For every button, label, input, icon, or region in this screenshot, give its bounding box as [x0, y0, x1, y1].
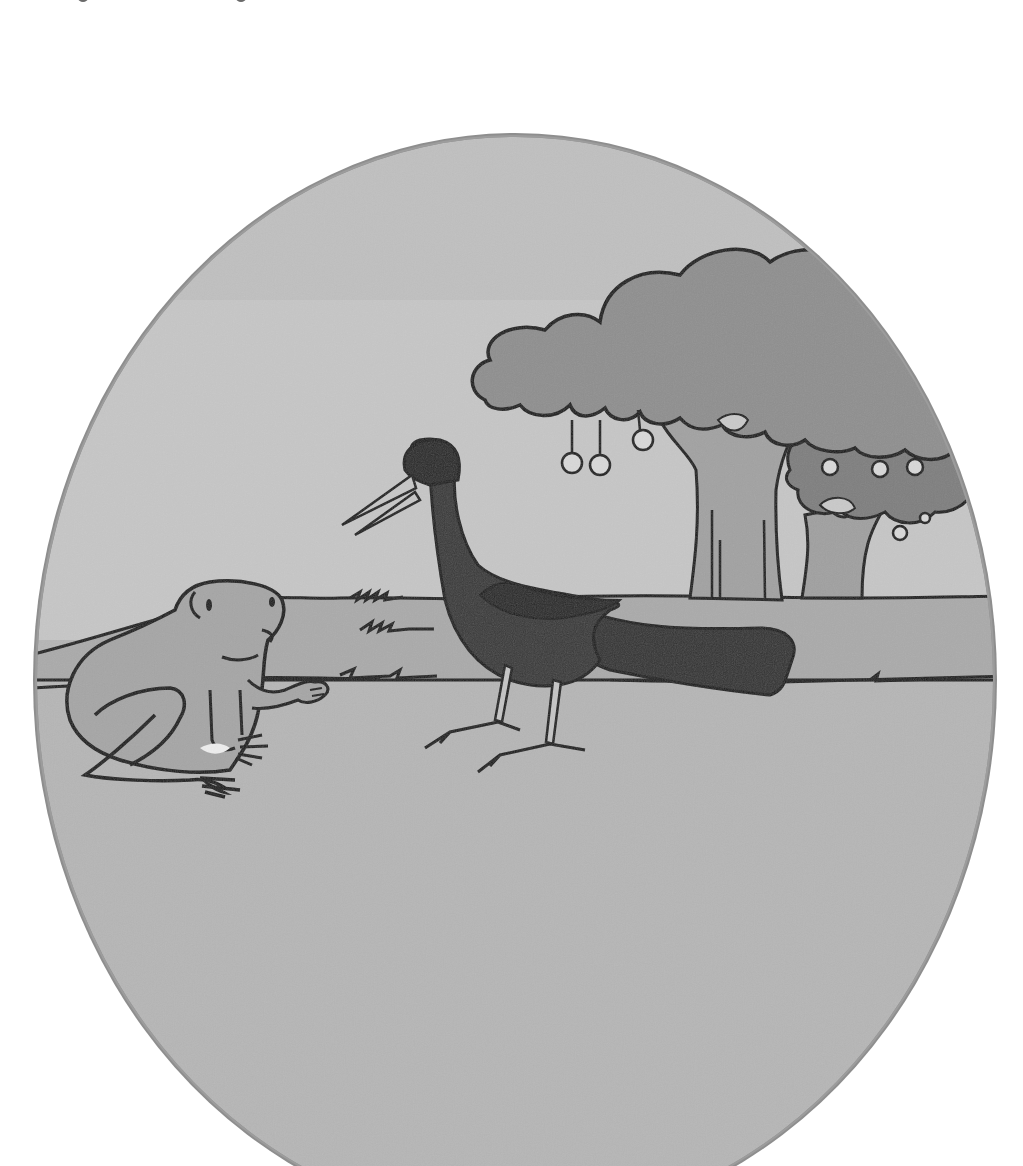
illustration [0, 0, 1023, 1166]
